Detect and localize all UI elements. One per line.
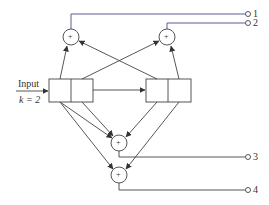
output-label-4: 4 bbox=[253, 185, 258, 195]
adder-1-plus: + bbox=[68, 32, 73, 42]
output-label-2: 2 bbox=[253, 18, 258, 28]
input-label: Input bbox=[18, 79, 39, 89]
encoder-diagram bbox=[0, 0, 269, 205]
output-terminal-1 bbox=[246, 12, 251, 17]
adder-3-plus: + bbox=[116, 138, 121, 148]
output-line-2 bbox=[167, 23, 245, 29]
output-label-3: 3 bbox=[253, 152, 258, 162]
k-label: k = 2 bbox=[19, 95, 40, 105]
output-line-4 bbox=[119, 183, 245, 190]
output-terminal-4 bbox=[246, 188, 251, 193]
adder-4-plus: + bbox=[116, 170, 121, 180]
shift-register-right bbox=[146, 79, 191, 102]
output-line-1 bbox=[71, 14, 245, 29]
output-terminal-3 bbox=[246, 155, 251, 160]
adder-2-plus: + bbox=[164, 32, 169, 42]
output-terminal-2 bbox=[246, 21, 251, 26]
